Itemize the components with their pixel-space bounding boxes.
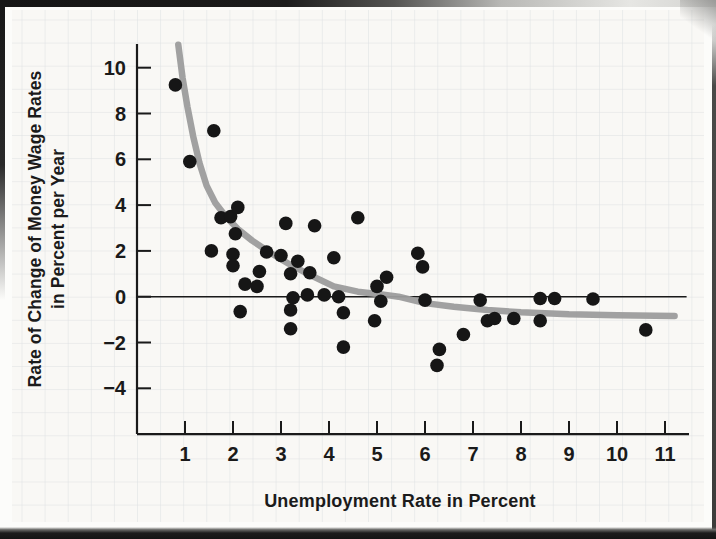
y-axis-title-line1: Rate of Change of Money Wage Rates — [24, 59, 47, 399]
data-point — [418, 293, 432, 307]
y-tick-label: −4 — [103, 377, 127, 399]
data-point — [183, 155, 197, 169]
photo-edge-bottom — [0, 527, 716, 539]
data-point — [368, 314, 382, 328]
data-point — [284, 303, 298, 317]
y-tick-label: 6 — [115, 148, 126, 170]
data-point — [430, 359, 444, 373]
photo-shadow-top-right — [680, 0, 716, 52]
y-tick-label: 4 — [115, 194, 127, 216]
data-point — [433, 343, 447, 357]
data-point — [332, 290, 346, 304]
x-tick-label: 4 — [323, 443, 335, 465]
data-point — [317, 288, 331, 302]
data-point — [533, 292, 547, 306]
data-point — [207, 124, 221, 138]
x-tick-label: 7 — [467, 443, 478, 465]
data-point — [374, 295, 388, 309]
data-point — [231, 201, 245, 215]
data-point — [533, 314, 547, 328]
data-point — [226, 259, 240, 273]
x-tick-label: 5 — [371, 443, 382, 465]
y-axis-title-line2: in Percent per Year — [47, 59, 70, 399]
x-tick-label: 6 — [419, 443, 430, 465]
data-point — [337, 306, 351, 320]
x-tick-label: 2 — [227, 443, 238, 465]
data-point — [488, 312, 502, 326]
data-point — [284, 322, 298, 336]
x-tick-label: 8 — [515, 443, 526, 465]
data-point — [308, 219, 322, 233]
data-point — [548, 292, 562, 306]
data-point — [274, 249, 288, 263]
x-tick-label: 10 — [606, 443, 628, 465]
y-tick-label: 8 — [115, 103, 126, 125]
data-point — [286, 291, 300, 305]
data-point — [169, 78, 183, 92]
y-tick-label: 2 — [115, 240, 126, 262]
data-point — [507, 312, 521, 326]
data-point — [205, 244, 219, 258]
data-point — [253, 265, 267, 279]
y-tick-label: −2 — [103, 332, 126, 354]
data-point — [238, 277, 252, 291]
data-point — [229, 227, 243, 241]
photo-edge-top — [0, 0, 716, 7]
data-point — [639, 323, 653, 337]
data-point — [586, 292, 600, 306]
data-point — [411, 246, 425, 260]
data-point — [473, 293, 487, 307]
data-point — [457, 328, 471, 342]
y-tick-label: 10 — [104, 57, 126, 79]
x-axis-title: Unemployment Rate in Percent — [120, 491, 680, 512]
data-point — [250, 280, 264, 294]
x-tick-label: 3 — [275, 443, 286, 465]
photo-edge-left — [0, 0, 5, 300]
data-point — [291, 254, 305, 268]
photo-edge-right — [712, 24, 716, 539]
y-axis-title: Rate of Change of Money Wage Rates in Pe… — [24, 59, 70, 399]
data-point — [416, 260, 430, 274]
scanned-phillips-curve-figure: 1086420−2−41234567891011 Rate of Change … — [0, 0, 716, 539]
data-point — [279, 217, 293, 231]
data-point — [301, 288, 315, 302]
data-point — [337, 340, 351, 354]
data-point — [303, 266, 317, 280]
data-point — [284, 267, 298, 281]
data-point — [233, 305, 247, 319]
x-tick-label: 1 — [179, 443, 190, 465]
grid-lines — [12, 10, 704, 522]
x-tick-label: 9 — [563, 443, 574, 465]
data-point — [380, 270, 394, 284]
data-point — [351, 211, 365, 225]
data-point — [327, 251, 341, 265]
data-point — [260, 245, 274, 259]
y-tick-label: 0 — [115, 286, 126, 308]
x-tick-label: 11 — [654, 443, 675, 465]
phillips-curve-chart: 1086420−2−41234567891011 — [0, 0, 716, 539]
